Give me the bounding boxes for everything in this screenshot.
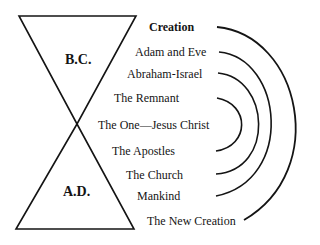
label-the-remnant: The Remnant [114, 91, 179, 105]
label-the-one-jesus-christ: The One—Jesus Christ [98, 118, 209, 132]
label-creation: Creation [149, 20, 194, 34]
label-adam-and-eve: Adam and Eve [135, 45, 206, 59]
label-the-apostles: The Apostles [112, 144, 175, 158]
label-mankind: Mankind [137, 189, 180, 203]
bc-triangle [19, 16, 136, 124]
label-the-church: The Church [126, 168, 183, 182]
label-the-new-creation: The New Creation [147, 214, 236, 228]
ad-triangle [16, 124, 134, 229]
label-abraham-israel: Abraham-Israel [127, 67, 202, 81]
era-bc-label: B.C. [65, 52, 91, 68]
arc-creation-new-creation [217, 27, 296, 220]
arc-remnant-apostles [216, 98, 242, 151]
arc-abraham-church [216, 73, 259, 174]
era-ad-label: A.D. [63, 184, 90, 200]
